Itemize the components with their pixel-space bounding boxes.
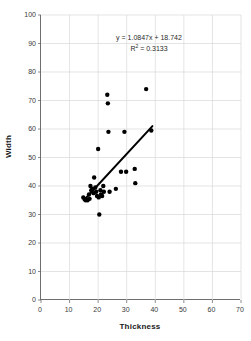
x-tick-label: 20 [86, 306, 108, 313]
x-tick-label: 40 [143, 306, 165, 313]
y-tick-label: 90 [4, 40, 36, 47]
y-axis-title: Width [4, 122, 13, 172]
x-tick-label: 10 [58, 306, 80, 313]
axis-ticks [38, 15, 241, 303]
regression-annotation: y = 1.0847x + 18.742 R2 = 0.3133 [89, 33, 209, 55]
x-tick-label: 60 [200, 306, 222, 313]
y-tick-label: 0 [4, 296, 36, 303]
r-squared-number: = 0.3133 [138, 45, 167, 52]
x-axis-title: Thickness [40, 322, 240, 331]
x-tick-label: 70 [229, 306, 251, 313]
x-tick-label: 30 [115, 306, 137, 313]
plot-canvas [41, 15, 241, 300]
gridlines [41, 15, 241, 300]
y-tick-label: 100 [4, 11, 36, 18]
y-tick-label: 80 [4, 68, 36, 75]
data-points [81, 87, 153, 217]
y-tick-label: 70 [4, 97, 36, 104]
plot-area: y = 1.0847x + 18.742 R2 = 0.3133 [40, 15, 240, 300]
y-tick-label: 30 [4, 211, 36, 218]
regression-equation: y = 1.0847x + 18.742 [89, 33, 209, 44]
y-tick-label: 40 [4, 182, 36, 189]
y-tick-label: 10 [4, 268, 36, 275]
r-squared-value: R2 = 0.3133 [89, 44, 209, 55]
x-tick-label: 50 [172, 306, 194, 313]
x-tick-label: 0 [29, 306, 51, 313]
scatter-chart-figure: 0102030405060708090100 010203040506070 y… [0, 0, 251, 341]
y-tick-label: 20 [4, 239, 36, 246]
